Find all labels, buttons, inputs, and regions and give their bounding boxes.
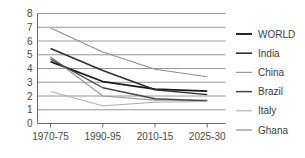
legend-label-ghana: Ghana — [258, 125, 288, 136]
series-line-world — [51, 62, 208, 92]
legend-label-brazil: Brazil — [258, 86, 283, 97]
series-line-ghana — [51, 28, 208, 77]
x-tick-label-3: 2025-30 — [189, 131, 226, 142]
y-tick-label-0: 0 — [27, 118, 33, 129]
legend-label-india: India — [258, 48, 280, 59]
y-tick-label-3: 3 — [27, 77, 33, 88]
x-axis-tick-labels: 1970-751990-952010-152025-30 — [32, 131, 226, 142]
y-tick-label-6: 6 — [27, 36, 33, 47]
x-axis-tick-marks — [51, 124, 208, 128]
y-tick-label-7: 7 — [27, 22, 33, 33]
y-axis-tick-labels: 012345678 — [27, 8, 33, 129]
data-series-lines — [51, 28, 208, 106]
chart-canvas: 012345678 1970-751990-952010-152025-30 W… — [0, 0, 305, 158]
x-tick-label-1: 1990-95 — [84, 131, 121, 142]
fertility-rate-line-chart: 012345678 1970-751990-952010-152025-30 W… — [0, 0, 305, 158]
chart-legend: WORLDIndiaChinaBrazilItalyGhana — [236, 29, 295, 136]
x-tick-label-2: 2010-15 — [137, 131, 174, 142]
y-tick-label-5: 5 — [27, 49, 33, 60]
y-tick-label-1: 1 — [27, 104, 33, 115]
x-tick-label-0: 1970-75 — [32, 131, 69, 142]
y-tick-label-8: 8 — [27, 8, 33, 19]
legend-label-china: China — [258, 67, 285, 78]
y-tick-label-2: 2 — [27, 91, 33, 102]
legend-label-italy: Italy — [258, 105, 276, 116]
legend-label-world: WORLD — [258, 29, 295, 40]
y-tick-label-4: 4 — [27, 63, 33, 74]
